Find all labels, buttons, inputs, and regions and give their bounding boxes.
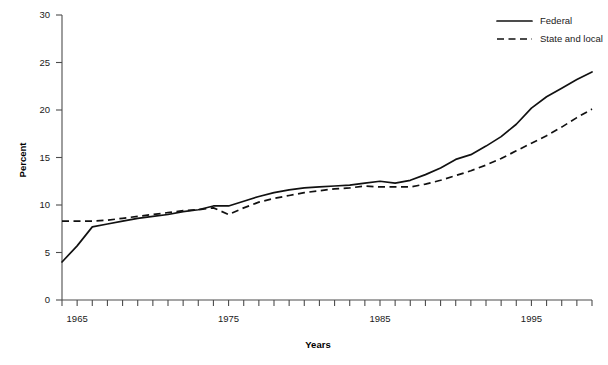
series-line-state-and-local [62, 109, 592, 221]
x-tick-label-1985: 1985 [369, 313, 390, 324]
y-tick-label-10: 10 [39, 199, 50, 210]
x-tick-label-1965: 1965 [67, 313, 88, 324]
y-axis-title: Percent [17, 142, 28, 178]
x-tick-group [62, 300, 592, 306]
y-axis: 051015202530 [39, 9, 62, 305]
y-tick-label-group: 051015202530 [39, 9, 50, 305]
data-series-group [62, 72, 592, 262]
x-axis: 1965197519851995 [62, 300, 592, 324]
y-tick-group [56, 15, 62, 300]
y-tick-label-5: 5 [45, 247, 50, 258]
y-tick-label-25: 25 [39, 57, 50, 68]
x-tick-label-1975: 1975 [218, 313, 239, 324]
y-tick-label-15: 15 [39, 152, 50, 163]
y-tick-label-0: 0 [45, 294, 50, 305]
x-tick-label-1995: 1995 [521, 313, 542, 324]
chart-figure: 051015202530 1965197519851995 Percent Ye… [0, 0, 608, 365]
legend-label-state-and-local: State and local [540, 33, 603, 44]
x-tick-label-group: 1965197519851995 [67, 313, 542, 324]
series-line-federal [62, 72, 592, 262]
y-tick-label-30: 30 [39, 9, 50, 20]
y-tick-label-20: 20 [39, 104, 50, 115]
x-axis-title: Years [305, 339, 330, 350]
legend-label-federal: Federal [540, 15, 572, 26]
line-chart-canvas: 051015202530 1965197519851995 Percent Ye… [0, 0, 608, 365]
legend: FederalState and local [497, 15, 603, 44]
